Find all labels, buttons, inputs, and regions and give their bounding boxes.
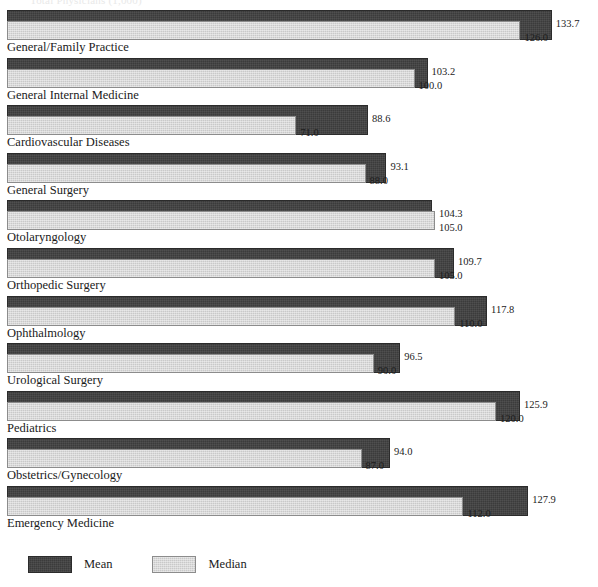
median-bar xyxy=(7,497,463,516)
median-bar xyxy=(7,354,374,373)
median-bar xyxy=(7,449,362,468)
bar-group xyxy=(7,343,598,373)
chart-row: 88.671.0Cardiovascular Diseases xyxy=(0,105,598,153)
mean-value-label: 127.9 xyxy=(532,494,556,505)
category-label: Otolaryngology xyxy=(7,230,86,245)
median-value-label: 100.0 xyxy=(419,80,443,91)
category-label: Urological Surgery xyxy=(7,373,103,388)
median-value-label: 90.0 xyxy=(378,365,396,376)
median-legend-swatch xyxy=(152,556,196,573)
median-bar xyxy=(7,116,296,135)
chart-rows: 133.7126.0General/Family Practice103.210… xyxy=(0,10,598,534)
category-label: Orthopedic Surgery xyxy=(7,278,106,293)
chart-row: 103.2100.0General Internal Medicine xyxy=(0,58,598,106)
chart-row: 127.9112.0Emergency Medicine xyxy=(0,486,598,534)
category-label: Obstetrics/Gynecology xyxy=(7,468,122,483)
chart-legend: MeanMedian xyxy=(28,556,287,573)
category-label: Ophthalmology xyxy=(7,326,85,341)
bar-group xyxy=(7,153,598,183)
median-value-label: 126.0 xyxy=(524,32,548,43)
mean-value-label: 125.9 xyxy=(524,399,548,410)
category-label: General Surgery xyxy=(7,183,89,198)
bar-group xyxy=(7,248,598,278)
mean-value-label: 94.0 xyxy=(394,446,412,457)
median-legend-label: Median xyxy=(208,557,246,572)
mean-value-label: 104.3 xyxy=(439,208,463,219)
category-label: Pediatrics xyxy=(7,421,56,436)
chart-row: 133.7126.0General/Family Practice xyxy=(0,10,598,58)
chart-row: 96.590.0Urological Surgery xyxy=(0,343,598,391)
bar-group xyxy=(7,10,598,40)
mean-legend-swatch xyxy=(28,556,72,573)
mean-value-label: 133.7 xyxy=(556,18,580,29)
chart-row: 117.8110.0Ophthalmology xyxy=(0,296,598,344)
bar-chart: Total Physicians (1,000) 133.7126.0Gener… xyxy=(0,0,598,587)
chart-row: 104.3105.0Otolaryngology xyxy=(0,200,598,248)
mean-legend: Mean xyxy=(28,556,112,573)
clipped-header-text: Total Physicians (1,000) xyxy=(30,0,142,6)
median-legend: Median xyxy=(152,556,246,573)
median-value-label: 88.0 xyxy=(370,175,388,186)
chart-row: 109.7105.0Orthopedic Surgery xyxy=(0,248,598,296)
category-label: General/Family Practice xyxy=(7,40,129,55)
median-bar xyxy=(7,307,455,326)
median-value-label: 120.0 xyxy=(500,413,524,424)
mean-value-label: 96.5 xyxy=(404,351,422,362)
bar-group xyxy=(7,438,598,468)
median-value-label: 105.0 xyxy=(439,270,463,281)
chart-row: 93.188.0General Surgery xyxy=(0,153,598,201)
category-label: General Internal Medicine xyxy=(7,88,139,103)
bar-group xyxy=(7,58,598,88)
median-value-label: 71.0 xyxy=(300,127,318,138)
median-bar xyxy=(7,259,435,278)
median-bar xyxy=(7,402,496,421)
chart-row: 94.087.0Obstetrics/Gynecology xyxy=(0,438,598,486)
mean-value-label: 109.7 xyxy=(458,256,482,267)
category-label: Emergency Medicine xyxy=(7,516,114,531)
mean-legend-label: Mean xyxy=(84,557,112,572)
median-bar xyxy=(7,211,435,230)
mean-value-label: 88.6 xyxy=(372,113,390,124)
category-label: Cardiovascular Diseases xyxy=(7,135,130,150)
chart-row: 125.9120.0Pediatrics xyxy=(0,391,598,439)
median-value-label: 110.0 xyxy=(459,318,482,329)
median-bar xyxy=(7,164,366,183)
mean-value-label: 117.8 xyxy=(491,304,514,315)
mean-value-label: 103.2 xyxy=(432,66,456,77)
bar-group xyxy=(7,486,598,516)
median-value-label: 112.0 xyxy=(467,508,490,519)
mean-value-label: 93.1 xyxy=(390,161,408,172)
median-bar xyxy=(7,21,520,40)
median-value-label: 87.0 xyxy=(366,460,384,471)
bar-group xyxy=(7,200,598,230)
median-bar xyxy=(7,69,415,88)
median-value-label: 105.0 xyxy=(439,222,463,233)
